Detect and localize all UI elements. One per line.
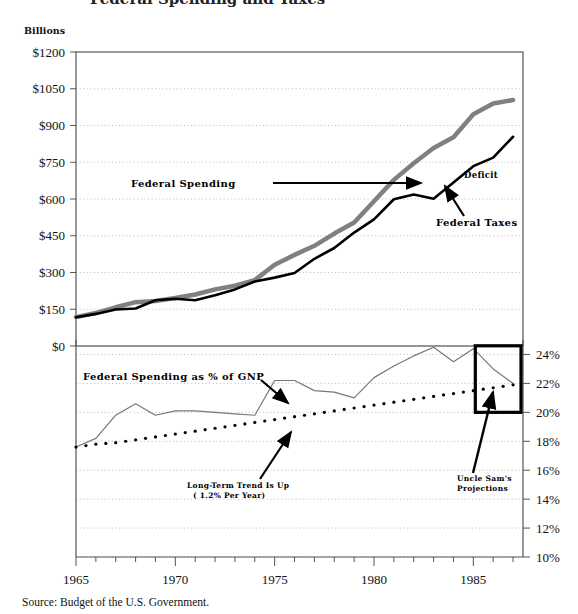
arrow-federal-taxes — [445, 186, 464, 216]
y-axis-tick-label: $150 — [39, 302, 65, 317]
trend-dot — [303, 414, 306, 417]
y-axis-tick-label: $0 — [52, 339, 65, 354]
annotation-federal-taxes: Federal Taxes — [436, 217, 517, 228]
trend-dot — [362, 405, 365, 408]
trend-dot — [343, 408, 346, 411]
trend-dot — [353, 406, 356, 409]
trend-dot — [402, 399, 405, 402]
y-axis-tick-label: $900 — [39, 118, 65, 133]
x-axis-tick-label: 1970 — [162, 572, 188, 587]
y-axis-tick-label: $300 — [39, 265, 65, 280]
trend-dot — [233, 424, 236, 427]
trend-dot — [482, 388, 485, 391]
y-axis-tick-label: $450 — [39, 228, 65, 243]
trend-dot — [124, 440, 127, 443]
x-axis-tick-label: 1965 — [63, 572, 89, 587]
annotation-trend-line1: Long-Term Trend Is Up — [187, 481, 289, 490]
trend-dot — [253, 421, 256, 424]
trend-dot — [432, 395, 435, 398]
y-axis-tick-label-right: 12% — [536, 521, 560, 536]
trend-dot — [313, 412, 316, 415]
trend-dot — [511, 383, 514, 386]
trend-dot — [164, 434, 167, 437]
trend-dot — [273, 418, 276, 421]
trend-dot — [492, 386, 495, 389]
y-axis-units-label: Billions — [24, 25, 65, 36]
trend-dot — [204, 428, 207, 431]
trend-dot — [174, 432, 177, 435]
trend-dot — [104, 442, 107, 445]
y-axis-tick-label-right: 18% — [536, 434, 560, 449]
annotation-federal-spending: Federal Spending — [131, 178, 236, 189]
y-axis-tick-label-right: 16% — [536, 463, 560, 478]
x-axis-tick-label: 1975 — [262, 572, 288, 587]
trend-dot — [223, 425, 226, 428]
chart-figure: Federal Spending and Taxes Billions $0$1… — [0, 0, 578, 614]
clipped-chart-title: Federal Spending and Taxes — [90, 0, 325, 8]
y-axis-tick-label: $600 — [39, 192, 65, 207]
trend-dot — [263, 419, 266, 422]
trend-dot — [114, 441, 117, 444]
annotation-projections-line2: Projections — [457, 484, 508, 493]
annotation-trend-line2: ( 1.2% Per Year) — [193, 491, 265, 500]
x-axis-tick-label: 1985 — [460, 572, 486, 587]
y-axis-tick-label-right: 14% — [536, 492, 560, 507]
y-axis-tick-label-right: 20% — [536, 405, 560, 420]
trend-dot — [184, 431, 187, 434]
source-note: Source: Budget of the U.S. Government. — [22, 596, 209, 609]
trend-dot — [154, 435, 157, 438]
projection-highlight-box — [475, 346, 521, 413]
trend-dot — [382, 402, 385, 405]
trend-dot — [94, 443, 97, 446]
trend-dot — [293, 415, 296, 418]
trend-dot — [412, 398, 415, 401]
y-axis-tick-label-right: 22% — [536, 376, 560, 391]
trend-dot — [194, 430, 197, 433]
annotation-projections-line1: Uncle Sam's — [457, 474, 512, 483]
trend-dot — [323, 411, 326, 414]
annotation-layer: Federal SpendingDeficitFederal TaxesFede… — [83, 170, 517, 500]
trend-dot — [283, 417, 286, 420]
trend-dot — [392, 401, 395, 404]
trend-dot — [422, 396, 425, 399]
y-axis-tick-label-right: 10% — [536, 550, 560, 565]
clipped-title-text: Federal Spending and Taxes — [90, 0, 325, 8]
trend-dot — [134, 438, 137, 441]
trend-dot — [372, 404, 375, 407]
trend-dot — [243, 422, 246, 425]
series-line-federal-spending — [76, 100, 513, 317]
series-line-gnp-share — [76, 347, 513, 447]
trend-dot — [333, 409, 336, 412]
federal-budget-chart: Federal Spending and Taxes Billions $0$1… — [0, 0, 578, 614]
trend-dot — [144, 437, 147, 440]
y-axis-tick-label-right: 24% — [536, 347, 560, 362]
trend-dot — [502, 385, 505, 388]
trend-dot — [452, 392, 455, 395]
y-axis-tick-label: $750 — [39, 155, 65, 170]
x-axis-tick-label: 1980 — [361, 572, 387, 587]
trend-dot — [462, 390, 465, 393]
annotation-gnp-share: Federal Spending as % of GNP — [83, 371, 264, 382]
y-axis-tick-label: $1200 — [33, 45, 66, 60]
trend-dot — [442, 393, 445, 396]
trend-dot — [84, 444, 87, 447]
annotation-deficit: Deficit — [464, 170, 498, 180]
trend-dot — [74, 445, 77, 448]
y-axis-tick-label: $1050 — [33, 81, 66, 96]
arrow-trend — [260, 432, 291, 479]
upper-panel: $0$150$300$450$600$750$900$1050$1200 — [33, 45, 524, 354]
trend-dot — [213, 427, 216, 430]
